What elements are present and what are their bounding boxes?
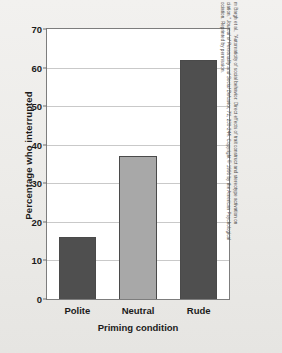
source-citation-line-2: ciation," Journal of Personality and Soc… [225, 2, 232, 353]
y-tick-label: 0 [37, 294, 42, 305]
y-tick-label: 50 [31, 101, 42, 112]
y-tick-label: 60 [31, 62, 42, 73]
source-citation-journal: Journal of Personality and Social Behavi… [226, 20, 231, 117]
x-tick-label: Neutral [122, 305, 155, 316]
bar-chart-figure: Percentage who interrupted 0102030405060… [0, 0, 282, 353]
y-tick-label: 70 [31, 24, 42, 35]
y-tick-mark [43, 106, 47, 107]
source-citation: m Bargh et al., "Automaticity of social … [194, 0, 238, 353]
y-tick-mark [43, 183, 47, 184]
y-tick-mark [43, 29, 47, 30]
y-tick-mark [43, 144, 47, 145]
bar-neutral [119, 156, 157, 299]
y-tick-label: 40 [31, 139, 42, 150]
y-tick-mark [43, 221, 47, 222]
x-tick-label: Polite [64, 305, 90, 316]
source-citation-line-1: m Bargh et al., "Automaticity of social … [231, 2, 238, 353]
y-tick-label: 20 [31, 216, 42, 227]
y-tick-label: 10 [31, 255, 42, 266]
source-citation-line-2-pre: ciation," [226, 2, 231, 20]
y-tick-mark [43, 260, 47, 261]
y-tick-label: 30 [31, 178, 42, 189]
source-citation-line-2-post: 230-244. Copyright © 1996 by the America… [226, 117, 231, 240]
bar-polite [59, 237, 97, 299]
y-tick-mark [43, 67, 47, 68]
source-citation-line-3: ociation. Reprinted by permission. [218, 2, 225, 353]
y-tick-mark [43, 299, 47, 300]
